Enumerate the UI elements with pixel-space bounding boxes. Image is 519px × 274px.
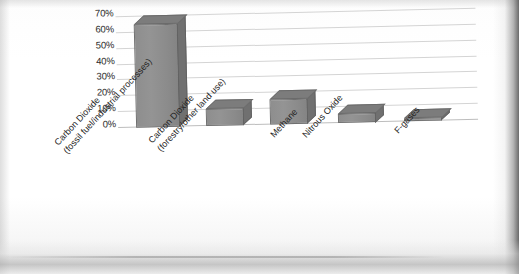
- x-axis-category-labels: Carbon Dioxide (fossil fuel/industrial p…: [0, 0, 519, 274]
- x-axis-category-label: F-gases: [392, 105, 422, 137]
- x-axis-category-label: Carbon Dioxide (fossil fuel/industrial p…: [52, 48, 154, 156]
- bar-chart: 0%10%20%30%40%50%60%70% Carbon Dioxide (…: [0, 0, 519, 274]
- x-axis-category-label: Nitrous Oxide: [300, 93, 345, 141]
- x-axis-category-label: Carbon Dioxide (forestry/other land use): [146, 68, 228, 154]
- x-axis-category-label: Methane: [268, 107, 300, 141]
